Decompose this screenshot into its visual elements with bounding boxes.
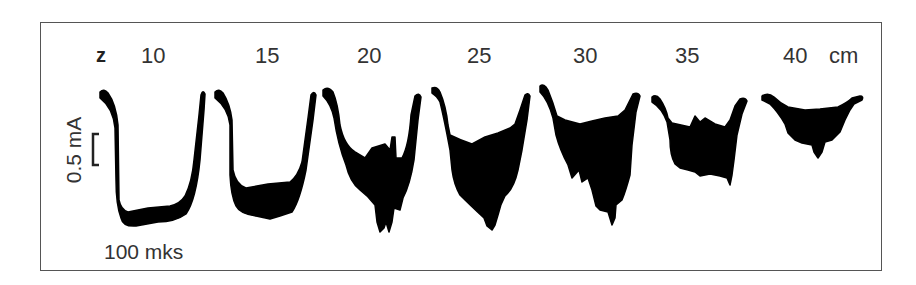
trace-z40 [762, 94, 863, 158]
trace-z10 [100, 90, 205, 226]
trace-z30 [540, 85, 640, 225]
trace-z15 [215, 90, 316, 219]
oscillogram-traces [0, 0, 916, 285]
current-scale-bar [93, 134, 99, 165]
trace-z35 [652, 96, 747, 185]
trace-z20 [323, 88, 421, 232]
trace-z25 [432, 88, 530, 231]
